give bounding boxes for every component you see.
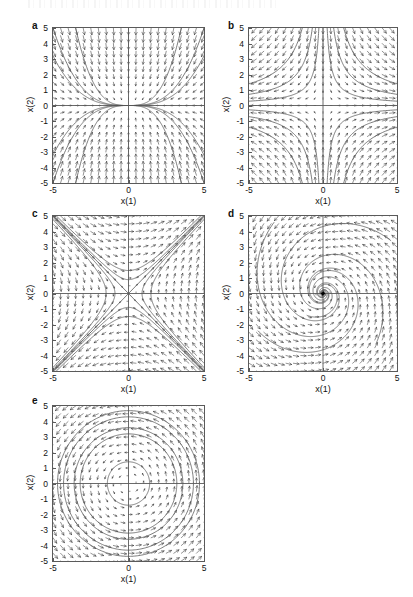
y-tick-label-e-0: 5 [30,402,48,411]
y-tick-label-e-1: 4 [30,418,48,427]
y-tick-mark-e-5 [53,484,56,485]
panel-e: e543210-1-2-3-4-5-505x(1)x(2) [0,0,413,597]
y-tick-mark-e-9 [53,546,56,547]
y-tick-label-e-9: -4 [30,542,48,551]
phase-portrait-e [53,406,204,561]
x-tick-mark-e-2 [204,558,205,561]
y-tick-mark-e-10 [53,561,56,562]
x-tick-label-e-0: -5 [41,564,65,573]
y-tick-label-e-7: -2 [30,511,48,520]
y-tick-mark-e-7 [53,515,56,516]
x-axis-label-e: x(1) [52,575,205,584]
y-axis-label-e: x(2) [26,462,35,502]
x-tick-mark-e-0 [53,558,54,561]
y-tick-label-e-2: 3 [30,433,48,442]
y-tick-label-e-3: 2 [30,449,48,458]
x-tick-mark-e-1 [129,558,130,561]
plot-area-e [52,405,205,562]
y-tick-mark-e-1 [53,422,56,423]
y-tick-mark-e-8 [53,530,56,531]
y-tick-mark-e-0 [53,406,56,407]
y-tick-label-e-8: -3 [30,526,48,535]
x-tick-label-e-1: 0 [117,564,141,573]
y-tick-mark-e-4 [53,468,56,469]
x-tick-label-e-2: 5 [192,564,216,573]
y-tick-mark-e-2 [53,437,56,438]
y-tick-mark-e-6 [53,499,56,500]
y-tick-mark-e-3 [53,453,56,454]
